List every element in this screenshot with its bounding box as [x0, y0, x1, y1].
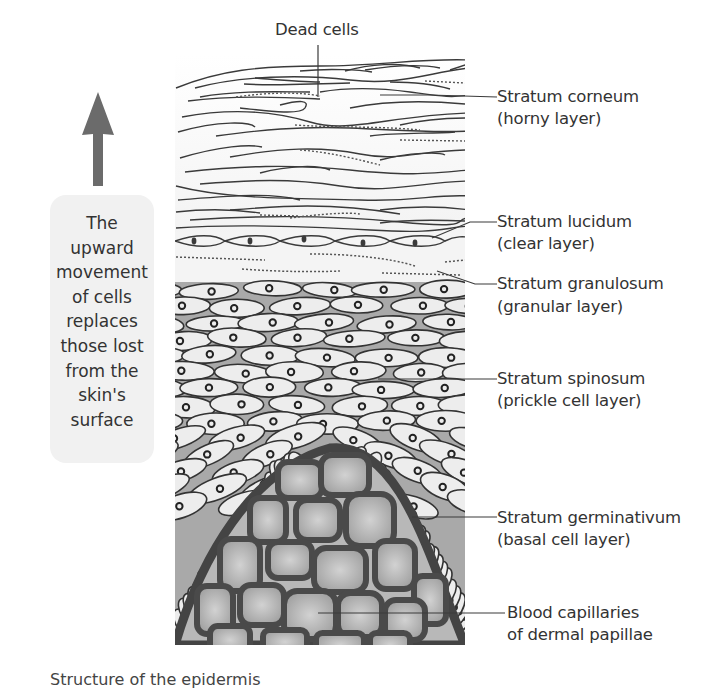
layer-alias: (granular layer): [497, 296, 623, 318]
layer-alias: (horny layer): [497, 108, 601, 130]
dead-cells-label: Dead cells: [275, 19, 359, 41]
layer-name: Stratum germinativum: [497, 507, 681, 529]
layer-name: Stratum spinosum: [497, 368, 645, 390]
layer-name: Stratum corneum: [497, 86, 639, 108]
layer-name: Stratum lucidum: [497, 211, 632, 233]
layer-alias: of dermal papillae: [507, 624, 653, 646]
layer-name: Stratum granulosum: [497, 273, 664, 295]
layer-alias: (prickle cell layer): [497, 390, 641, 412]
layer-name: Blood capillaries: [507, 602, 639, 624]
layer-alias: (clear layer): [497, 233, 595, 255]
figure-caption: Structure of the epidermis: [50, 670, 260, 689]
layer-alias: (basal cell layer): [497, 529, 630, 551]
